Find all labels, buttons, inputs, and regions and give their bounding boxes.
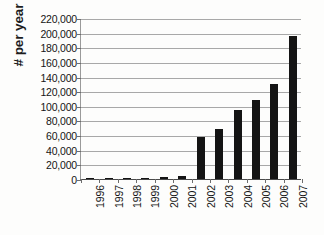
x-tick-label: 2006 (278, 185, 290, 225)
y-tick-label: 120,000 (30, 87, 77, 97)
y-tick-mark (77, 34, 81, 35)
plot-area (80, 19, 301, 180)
y-tick-label: 160,000 (30, 58, 77, 68)
gridline (81, 136, 301, 137)
y-tick-mark (77, 107, 81, 108)
x-tick-label: 2007 (297, 185, 309, 225)
y-tick-label: 180,000 (30, 43, 77, 53)
x-tick-label: 2005 (260, 185, 272, 225)
y-tick-label: 40,000 (30, 146, 77, 156)
y-tick-label: 100,000 (30, 102, 77, 112)
y-axis-title: # per year (8, 0, 30, 80)
gridline (81, 92, 301, 93)
x-tick-label: 1999 (149, 185, 161, 225)
y-tick-mark (77, 136, 81, 137)
y-tick-mark (77, 63, 81, 64)
y-tick-label: 200,000 (30, 29, 77, 39)
gridline (81, 63, 301, 64)
gridline (81, 48, 301, 49)
x-tick-label: 2002 (205, 185, 217, 225)
y-tick-label: 220,000 (30, 14, 77, 24)
x-axis-tick-labels: 1996199719981999200020012002200320042005… (80, 181, 301, 231)
bar (289, 36, 297, 179)
bar (197, 137, 205, 179)
x-tick-label: 2001 (186, 185, 198, 225)
y-tick-mark (77, 48, 81, 49)
y-tick-label: 140,000 (30, 73, 77, 83)
bar-chart: # per year 220,000200,000180,000160,0001… (0, 0, 324, 235)
y-axis-tick-labels: 220,000200,000180,000160,000140,000120,0… (30, 14, 77, 180)
bar (270, 84, 278, 179)
y-tick-mark (77, 92, 81, 93)
x-tick-label: 1996 (94, 185, 106, 225)
y-tick-mark (77, 19, 81, 20)
y-tick-mark (77, 78, 81, 79)
bar (160, 177, 168, 179)
gridline (81, 151, 301, 152)
x-tick-mark (302, 179, 303, 183)
gridline (81, 34, 301, 35)
y-tick-label: 20,000 (30, 160, 77, 170)
x-tick-label: 2003 (223, 185, 235, 225)
y-tick-label: 80,000 (30, 116, 77, 126)
x-tick-label: 2000 (168, 185, 180, 225)
x-tick-label: 1997 (113, 185, 125, 225)
x-tick-label: 2004 (242, 185, 254, 225)
gridline (81, 107, 301, 108)
gridline (81, 78, 301, 79)
bar (252, 100, 260, 179)
x-tick-label: 1998 (131, 185, 143, 225)
gridline (81, 165, 301, 166)
gridline (81, 19, 301, 20)
y-tick-mark (77, 121, 81, 122)
gridline (81, 121, 301, 122)
y-tick-mark (77, 165, 81, 166)
bar (141, 178, 149, 179)
bar (234, 110, 242, 179)
bar (105, 178, 113, 179)
bar (215, 129, 223, 179)
bar (86, 178, 94, 179)
y-tick-label: 0 (30, 175, 77, 185)
y-tick-label: 60,000 (30, 131, 77, 141)
y-tick-mark (77, 151, 81, 152)
bar (123, 178, 131, 179)
bar (178, 176, 186, 179)
